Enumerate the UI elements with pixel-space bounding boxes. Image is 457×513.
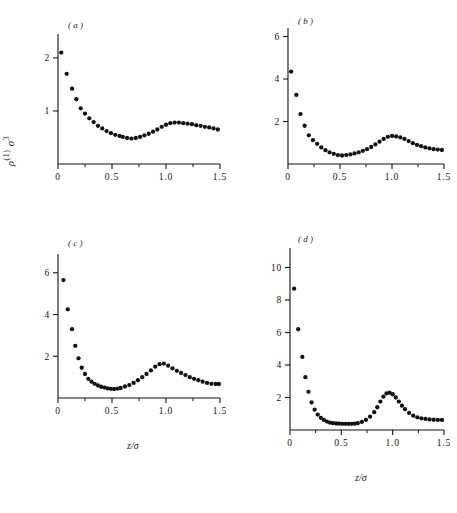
data-point <box>309 400 313 404</box>
data-point <box>336 153 340 157</box>
data-series <box>289 69 444 157</box>
data-point <box>440 418 444 422</box>
data-point <box>427 146 431 150</box>
y-axis-label: ρ(1) σ3 <box>2 106 16 196</box>
panel-tag-a: ( a ) <box>68 20 83 30</box>
data-point <box>151 129 155 133</box>
data-point <box>125 136 129 140</box>
data-point <box>83 111 87 115</box>
data-point <box>142 133 146 137</box>
data-point <box>411 414 415 418</box>
data-point <box>312 408 316 412</box>
data-point <box>211 126 215 130</box>
panel-tag-b: ( b ) <box>298 16 313 26</box>
data-point <box>323 148 327 152</box>
data-point <box>194 123 198 127</box>
y-axis-label-sigma-exponent: 3 <box>2 136 11 141</box>
data-point <box>203 125 207 129</box>
x-tick-label: 0.5 <box>334 438 348 448</box>
data-point <box>70 327 74 331</box>
x-tick-label: 0 <box>287 438 293 448</box>
data-point <box>316 412 320 416</box>
data-point <box>209 382 213 386</box>
data-point <box>394 395 398 399</box>
data-point <box>149 368 153 372</box>
data-point <box>160 125 164 129</box>
data-point <box>436 147 440 151</box>
data-point <box>411 141 415 145</box>
plot-d: 00.51.01.5246810 <box>268 234 450 456</box>
data-point <box>91 120 95 124</box>
y-tick-label: 8 <box>276 295 282 305</box>
data-point <box>402 137 406 141</box>
data-point <box>96 124 100 128</box>
data-point <box>170 366 174 370</box>
data-point <box>348 152 352 156</box>
data-point <box>357 150 361 154</box>
data-point <box>368 415 372 419</box>
panel-tag-c: ( c ) <box>68 238 83 248</box>
data-point <box>168 121 172 125</box>
data-point <box>70 87 74 91</box>
data-point <box>188 375 192 379</box>
data-point <box>378 399 382 403</box>
data-point <box>361 149 365 153</box>
data-point <box>198 124 202 128</box>
data-point <box>157 362 161 366</box>
data-point <box>400 403 404 407</box>
data-point <box>369 145 373 149</box>
data-point <box>201 380 205 384</box>
x-tick-label: 1.0 <box>385 172 399 182</box>
data-point <box>207 125 211 129</box>
data-point <box>87 116 91 120</box>
y-tick-label: 2 <box>276 393 282 403</box>
data-point <box>123 384 127 388</box>
data-point <box>373 142 377 146</box>
data-point <box>136 378 140 382</box>
panel-c: 00.51.01.5246( c ) <box>38 238 226 424</box>
figure-canvas: ρ(1) σ3 00.51.01.512( a ) 00.51.01.5246(… <box>0 0 457 513</box>
x-tick-label: 0 <box>285 172 291 182</box>
data-point <box>440 148 444 152</box>
data-point <box>185 122 189 126</box>
data-point <box>216 127 220 131</box>
y-tick-label: 4 <box>276 360 282 370</box>
data-series <box>292 286 444 426</box>
data-point <box>319 145 323 149</box>
panel-b: 00.51.01.5246( b ) <box>268 12 450 190</box>
data-point <box>377 140 381 144</box>
panel-tag-d: ( d ) <box>298 234 313 244</box>
data-point <box>344 153 348 157</box>
y-axis-label-superscript: (1) <box>2 150 11 161</box>
data-point <box>74 97 78 101</box>
data-point <box>73 344 77 348</box>
data-point <box>390 134 394 138</box>
data-point <box>315 142 319 146</box>
data-point <box>79 106 83 110</box>
data-point <box>109 131 113 135</box>
data-point <box>100 126 104 130</box>
y-tick-label: 10 <box>271 263 282 273</box>
x-tick-label: 1.0 <box>159 172 173 182</box>
data-point <box>415 143 419 147</box>
data-point <box>356 421 360 425</box>
data-point <box>397 399 401 403</box>
data-point <box>289 69 293 73</box>
x-tick-label: 1.5 <box>437 172 450 182</box>
data-point <box>59 50 63 54</box>
data-point <box>407 411 411 415</box>
data-point <box>131 381 135 385</box>
y-tick-label: 2 <box>44 352 50 362</box>
data-point <box>196 378 200 382</box>
data-point <box>394 134 398 138</box>
data-point <box>192 377 196 381</box>
panel-d: 00.51.01.5246810( d ) <box>268 234 450 456</box>
data-point <box>382 137 386 141</box>
data-point <box>300 355 304 359</box>
plot-c: 00.51.01.5246 <box>38 238 226 424</box>
data-point <box>86 377 90 381</box>
data-point <box>80 366 84 370</box>
x-tick-label: 0.5 <box>105 172 119 182</box>
data-point <box>129 136 133 140</box>
data-point <box>144 372 148 376</box>
